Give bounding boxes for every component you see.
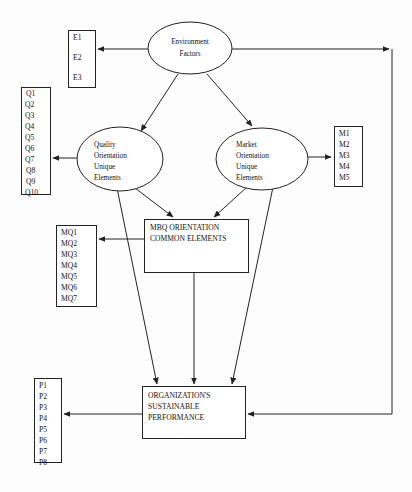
market-orientation-label-line4: Elements [236, 174, 263, 182]
indicator-item-p2: P2 [39, 392, 47, 401]
indicator-item-mq7: MQ7 [61, 294, 77, 303]
environment-factors-ellipse[interactable] [148, 22, 232, 74]
quality-orientation-label-line3: Unique [94, 163, 115, 171]
indicator-item-e2: E2 [73, 53, 82, 62]
market-orientation-label-line1: Market [236, 141, 257, 149]
market-orientation-label-line2: Orientation [236, 152, 269, 160]
indicator-item-q6: Q6 [25, 144, 34, 153]
connector-env-to-market [207, 74, 252, 126]
connector-market-to-mbq [214, 187, 247, 217]
indicator-item-q4: Q4 [25, 122, 34, 131]
connector-quality-to-performance [117, 188, 157, 384]
node-sustainable-performance[interactable]: ORGANIZATION'S SUSTAINABLE PERFORMANCE [143, 387, 246, 439]
indicator-item-e1: E1 [73, 33, 82, 42]
sustainable-performance-label-line3: PERFORMANCE [148, 413, 204, 422]
indicator-list-market: M1 M2 M3 M4 M5 [335, 127, 363, 187]
diagram-canvas: E1 E2 E3 Q1 Q2 Q3 Q4 Q5 Q6 Q7 Q8 Q9 Q10 … [0, 0, 412, 492]
indicator-item-e3: E3 [73, 73, 82, 82]
quality-orientation-label-line2: Orientation [94, 152, 127, 160]
indicator-item-q9: Q9 [26, 177, 35, 186]
connector-market-to-performance [232, 187, 273, 384]
indicator-item-mq6: MQ6 [61, 283, 77, 292]
indicator-item-q2: Q2 [25, 100, 34, 109]
indicator-item-q1: Q1 [26, 89, 35, 98]
indicator-item-m3: M3 [339, 151, 350, 160]
diagram-svg: E1 E2 E3 Q1 Q2 Q3 Q4 Q5 Q6 Q7 Q8 Q9 Q10 … [0, 0, 412, 492]
node-market-orientation[interactable]: Market Orientation Unique Elements [216, 128, 308, 190]
indicator-list-environment: E1 E2 E3 [69, 31, 96, 88]
node-environment-factors[interactable]: Environment Factors [148, 22, 232, 74]
indicator-item-q7: Q7 [25, 155, 34, 164]
mbq-common-elements-label-line2: COMMON ELEMENTS [150, 234, 227, 243]
node-quality-orientation[interactable]: Quality Orientation Unique Elements [77, 127, 163, 191]
indicator-item-q5: Q5 [25, 133, 34, 142]
connector-quality-to-mbq [135, 188, 173, 217]
connector-env-to-quality [141, 74, 178, 131]
indicator-list-quality: Q1 Q2 Q3 Q4 Q5 Q6 Q7 Q8 Q9 Q10 [22, 88, 51, 197]
indicator-item-q10: Q10 [25, 188, 38, 197]
indicator-item-m4: M4 [339, 162, 350, 171]
indicator-item-mq4: MQ4 [61, 261, 77, 270]
environment-factors-label-line2: Factors [179, 50, 200, 58]
indicator-item-p3: P3 [39, 403, 47, 412]
indicator-item-m1: M1 [339, 129, 350, 138]
indicator-item-mq1: MQ1 [61, 228, 77, 237]
indicator-item-p8: P8 [39, 458, 47, 467]
indicator-item-q8: Q8 [26, 166, 35, 175]
quality-orientation-label-line1: Quality [94, 141, 116, 149]
indicator-list-mbq: MQ1 MQ2 MQ3 MQ4 MQ5 MQ6 MQ7 [57, 226, 97, 307]
indicator-item-p6: P6 [39, 436, 47, 445]
indicator-item-p5: P5 [39, 425, 47, 434]
market-orientation-label-line3: Unique [236, 163, 257, 171]
mbq-common-elements-label-line1: MBQ ORIENTATION [150, 223, 220, 232]
node-mbq-common-elements[interactable]: MBQ ORIENTATION COMMON ELEMENTS [145, 220, 249, 273]
indicator-item-mq5: MQ5 [61, 272, 77, 281]
quality-orientation-label-line4: Elements [94, 174, 121, 182]
indicator-item-p1: P1 [39, 381, 47, 390]
indicator-item-mq3: MQ3 [61, 250, 77, 259]
sustainable-performance-label-line2: SUSTAINABLE [148, 402, 200, 411]
indicator-item-m5: M5 [339, 173, 350, 182]
environment-factors-label-line1: Environment [171, 38, 209, 46]
indicator-list-performance: P1 P2 P3 P4 P5 P6 P7 P8 [35, 379, 62, 467]
indicator-item-mq2: MQ2 [61, 239, 77, 248]
indicator-item-p7: P7 [39, 447, 47, 456]
indicator-item-m2: M2 [339, 140, 350, 149]
indicator-item-q3: Q3 [25, 111, 34, 120]
indicator-item-p4: P4 [39, 414, 47, 423]
sustainable-performance-label-line1: ORGANIZATION'S [148, 391, 211, 400]
